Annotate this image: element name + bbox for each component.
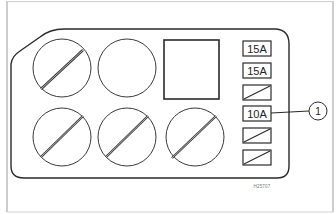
callout-1: 1 — [271, 102, 327, 120]
fuse-4[interactable]: 10A — [243, 106, 271, 121]
fuse-4-label: 10A — [247, 108, 267, 120]
relay-4[interactable] — [98, 108, 156, 166]
relay-3[interactable] — [33, 108, 91, 166]
fuse-5-blank[interactable] — [243, 128, 271, 143]
relay-5[interactable] — [166, 108, 224, 166]
outer-border — [7, 1, 333, 212]
relay-2[interactable] — [98, 39, 156, 97]
fuse-3-blank[interactable] — [243, 85, 271, 100]
figure-code: H25707 — [254, 184, 271, 189]
fuse-2[interactable]: 15A — [243, 63, 271, 78]
diagram-frame: 15A 15A 10A 1 H25707 — [0, 0, 336, 214]
callout-number: 1 — [315, 106, 321, 117]
relay-1[interactable] — [33, 39, 91, 97]
square-module[interactable] — [164, 40, 219, 99]
fuse-2-label: 15A — [247, 65, 267, 77]
fuse-6-blank[interactable] — [243, 150, 271, 165]
fuse-1-label: 15A — [247, 43, 267, 55]
callout-leader-line — [271, 111, 309, 113]
fuse-1[interactable]: 15A — [243, 41, 271, 56]
